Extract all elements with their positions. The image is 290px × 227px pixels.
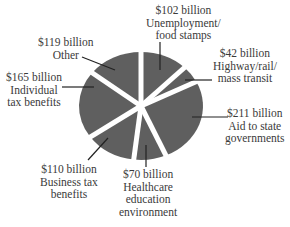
label-text: Unemployment/ xyxy=(146,17,221,30)
label-value: $110 billion xyxy=(40,163,98,176)
label-individual: $165 billion Individual tax benefits xyxy=(6,71,62,109)
label-text: Aid to state xyxy=(225,120,284,133)
label-text: mass transit xyxy=(213,72,277,85)
label-unemployment: $102 billion Unemployment/ food stamps xyxy=(146,4,221,42)
label-other: $119 billion Other xyxy=(38,36,93,61)
label-healthcare: $70 billion Healthcare education environ… xyxy=(119,168,177,218)
label-text: tax benefits xyxy=(6,96,62,109)
label-value: $102 billion xyxy=(146,4,221,17)
label-text: benefits xyxy=(40,188,98,201)
label-text: environment xyxy=(119,206,177,219)
label-text: Individual xyxy=(6,84,62,97)
label-aid: $211 billion Aid to state governments xyxy=(225,107,284,145)
label-text: Highway/rail/ xyxy=(213,60,277,73)
label-text: Other xyxy=(38,49,93,62)
label-value: $42 billion xyxy=(213,47,277,60)
label-business: $110 billion Business tax benefits xyxy=(40,163,98,201)
label-highway: $42 billion Highway/rail/ mass transit xyxy=(213,47,277,85)
label-text: Business tax xyxy=(40,176,98,189)
label-text: Healthcare xyxy=(119,181,177,194)
label-text: food stamps xyxy=(146,29,221,42)
label-value: $211 billion xyxy=(225,107,284,120)
label-text: governments xyxy=(225,132,284,145)
label-value: $119 billion xyxy=(38,36,93,49)
label-text: education xyxy=(119,193,177,206)
label-value: $165 billion xyxy=(6,71,62,84)
label-value: $70 billion xyxy=(119,168,177,181)
